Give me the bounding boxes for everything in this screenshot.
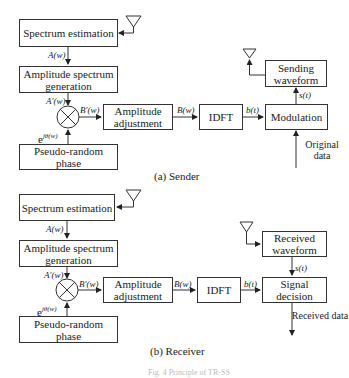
block-label: Spectrum estimation bbox=[23, 27, 114, 39]
label-s: s(t) bbox=[299, 90, 311, 100]
label-b: b(t) bbox=[246, 105, 259, 115]
receiver-received-waveform-block: Received waveform bbox=[262, 231, 327, 257]
block-label: Amplitude adjustment bbox=[104, 105, 172, 129]
block-label: Pseudo-random phase bbox=[20, 318, 117, 342]
receiver-amplitude-spectrum-generation-block: Amplitude spectrum generation bbox=[19, 240, 118, 267]
sender-modulation-block: Modulation bbox=[265, 104, 328, 130]
block-label: Amplitude spectrum generation bbox=[20, 68, 117, 92]
label-e-phase: ejθ(w) bbox=[38, 131, 58, 144]
sender-spectrum-estimation-block: Spectrum estimation bbox=[19, 19, 118, 47]
block-label: Amplitude adjustment bbox=[104, 278, 172, 302]
figure-caption: Fig. 4 Principle of TR-SS bbox=[148, 368, 230, 377]
receiver-caption: (b) Receiver bbox=[150, 345, 205, 357]
label-b: b(t) bbox=[244, 279, 257, 289]
label-B: B(w) bbox=[174, 279, 192, 289]
label-e-phase: ejθ(w) bbox=[37, 304, 57, 317]
receiver-pseudo-random-phase-block: Pseudo-random phase bbox=[19, 316, 118, 343]
block-label: Pseudo-random phase bbox=[20, 145, 117, 169]
exp-power: jθ(w) bbox=[43, 132, 58, 140]
block-label: IDFT bbox=[207, 284, 231, 296]
label-B: B(w) bbox=[177, 105, 195, 115]
label-B-prime: B′(w) bbox=[79, 279, 98, 289]
sender-idft-block: IDFT bbox=[199, 104, 243, 130]
sender-amplitude-spectrum-generation-block: Amplitude spectrum generation bbox=[19, 66, 118, 93]
exp-power: jθ(w) bbox=[42, 305, 57, 313]
label-B-prime: B′(w) bbox=[80, 105, 99, 115]
sender-pseudo-random-phase-block: Pseudo-random phase bbox=[19, 144, 118, 170]
sender-amplitude-adjustment-block: Amplitude adjustment bbox=[103, 104, 173, 130]
label-A-prime: A′(w) bbox=[44, 270, 63, 280]
sender-caption: (a) Sender bbox=[154, 170, 200, 182]
block-label: IDFT bbox=[209, 111, 233, 123]
block-label: Modulation bbox=[271, 111, 322, 123]
label-A-prime: A′(w) bbox=[46, 96, 65, 106]
label-s: s(t) bbox=[295, 263, 307, 273]
receiver-amplitude-adjustment-block: Amplitude adjustment bbox=[103, 277, 173, 303]
block-label: Spectrum estimation bbox=[22, 202, 113, 214]
label-A: A(w) bbox=[48, 50, 66, 60]
block-label: Signal decision bbox=[263, 278, 326, 302]
block-label: Amplitude spectrum generation bbox=[20, 242, 117, 266]
antenna-icon bbox=[126, 16, 141, 27]
label-A: A(w) bbox=[46, 224, 64, 234]
block-label: Sending waveform bbox=[266, 62, 326, 86]
receiver-idft-block: IDFT bbox=[197, 277, 241, 303]
received-data-label: Received data bbox=[291, 310, 349, 321]
receiver-signal-decision-block: Signal decision bbox=[262, 277, 327, 303]
receiver-spectrum-estimation-block: Spectrum estimation bbox=[19, 194, 115, 221]
original-data-label: Original data bbox=[299, 139, 345, 161]
sender-sending-waveform-block: Sending waveform bbox=[265, 60, 327, 87]
block-label: Received waveform bbox=[263, 232, 326, 256]
